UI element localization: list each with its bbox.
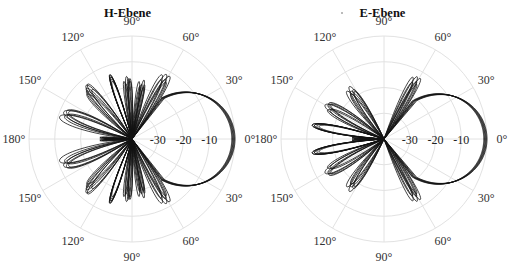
angle-label: 150° [18, 191, 41, 205]
radial-tick-label: -10 [201, 133, 217, 147]
angle-label: 150° [18, 73, 41, 87]
radial-tick-labels: -30-20-10 [150, 133, 218, 147]
angle-label: 120° [62, 30, 85, 44]
angle-label: 180° [255, 132, 278, 146]
angle-label: 60° [435, 234, 452, 248]
angle-label: 90° [124, 14, 141, 28]
radial-tick-label: -30 [402, 133, 418, 147]
radial-tick-label: -30 [150, 133, 166, 147]
angle-label: 60° [183, 30, 200, 44]
polar-plot: -30-20-100°30°60°90°120°150°180°30°60°90… [255, 0, 510, 269]
radial-tick-label: -20 [428, 133, 444, 147]
angle-label: 0° [497, 132, 508, 146]
radial-tick-label: -10 [453, 133, 469, 147]
angle-label: 120° [314, 30, 337, 44]
e-plane-chart: E-Ebene -30-20-100°30°60°90°120°150°180°… [255, 0, 510, 269]
angle-label: 90° [124, 250, 141, 264]
angle-label: 90° [376, 14, 393, 28]
polar-plot: -30-20-100°30°60°90°120°150°180°30°60°90… [0, 0, 255, 269]
angle-label: 60° [183, 234, 200, 248]
angle-label: 60° [435, 30, 452, 44]
stray-dot [341, 12, 343, 14]
h-plane-chart: H-Ebene -30-20-100°30°60°90°120°150°180°… [0, 0, 255, 269]
angle-label: 120° [62, 234, 85, 248]
angle-label: 150° [270, 73, 293, 87]
grid-spoke [132, 88, 221, 140]
angle-label: 0° [245, 132, 255, 146]
angle-label: 30° [478, 191, 495, 205]
angle-label: 30° [478, 73, 495, 87]
angle-label: 180° [3, 132, 26, 146]
radial-tick-label: -20 [176, 133, 192, 147]
radial-tick-labels: -30-20-10 [402, 133, 470, 147]
angle-label: 30° [226, 191, 243, 205]
angle-label: 90° [376, 250, 393, 264]
angle-label: 150° [270, 191, 293, 205]
angle-label: 30° [226, 73, 243, 87]
grid-spoke [132, 139, 221, 191]
angle-label: 120° [314, 234, 337, 248]
